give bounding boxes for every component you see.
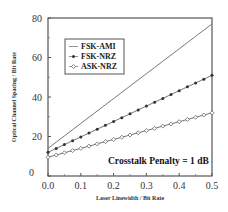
x-tick-label: 0.2: [107, 180, 120, 191]
y-tick-label: 0: [29, 167, 34, 178]
series-ask-nrz: [46, 111, 214, 159]
y-tick-label: 40: [32, 92, 42, 103]
y-tick-label: 60: [32, 52, 42, 63]
x-axis-title: Laser Linewidth / Bit Rate: [96, 195, 165, 201]
y-tick-label: 80: [32, 13, 42, 24]
y-tick-label: 20: [32, 131, 42, 142]
legend: FSK-AMIFSK-NRZASK-NRZ: [65, 39, 124, 74]
x-tick-label: 0.3: [140, 180, 153, 191]
x-tick-label: 0.0: [42, 180, 55, 191]
legend-label: FSK-NRZ: [81, 52, 116, 61]
crosstalk-annotation: Crosstalk Penalty = 1 dB: [108, 156, 209, 166]
x-tick-label: 0.1: [75, 180, 88, 191]
legend-label: FSK-AMI: [81, 42, 116, 51]
x-tick-label: 0.5: [206, 180, 219, 191]
x-tick-label: 0.4: [173, 180, 186, 191]
line-chart: 020406080 0.00.10.20.30.40.5 FSK-AMIFSK-…: [0, 0, 228, 212]
legend-label: ASK-NRZ: [81, 62, 117, 71]
y-axis-title: Optical Channel Spacing / Bit Rate: [11, 52, 17, 142]
